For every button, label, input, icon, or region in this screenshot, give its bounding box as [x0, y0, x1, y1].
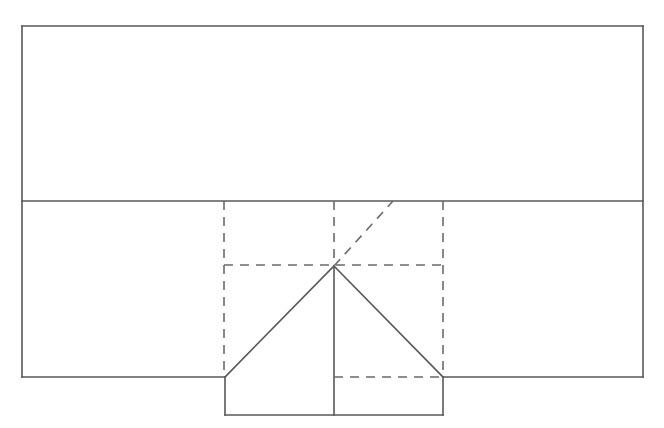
hidden-hip-rafter-line: [334, 201, 393, 266]
line-drawing-svg: [0, 0, 664, 428]
drawing-canvas: [0, 0, 664, 428]
solid-lines-group: [22, 26, 643, 415]
roof-slope-left: [225, 266, 334, 377]
roof-slope-right: [334, 266, 443, 377]
